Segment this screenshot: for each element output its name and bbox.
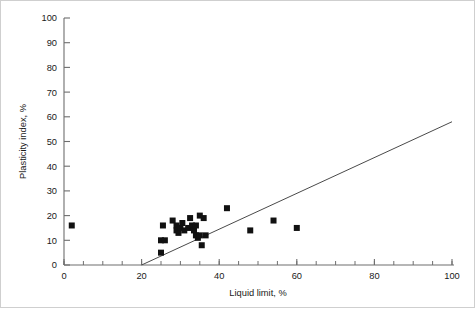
- y-axis-tick-label: 30: [47, 186, 57, 196]
- y-axis-tick-label: 100: [41, 13, 57, 23]
- y-axis-tick-label: 80: [47, 63, 57, 73]
- data-point: [158, 250, 164, 256]
- data-point: [224, 205, 230, 211]
- data-point: [271, 218, 277, 224]
- y-axis-tick-label: 90: [47, 38, 57, 48]
- data-point: [247, 227, 253, 233]
- data-point: [197, 232, 203, 238]
- y-axis-title: Plasticity index, %: [18, 104, 28, 179]
- trend-line: [142, 122, 452, 265]
- y-axis-tick-label: 70: [47, 88, 57, 98]
- scatter-plot-figure: 0204060801000102030405060708090100Liquid…: [0, 0, 476, 309]
- x-axis-title: Liquid limit, %: [229, 288, 286, 298]
- data-point: [179, 220, 185, 226]
- x-axis-tick-label: 100: [444, 271, 460, 281]
- data-point: [162, 237, 168, 243]
- data-point: [203, 232, 209, 238]
- data-point: [201, 215, 207, 221]
- x-axis-tick-label: 80: [369, 271, 379, 281]
- x-axis-tick-label: 0: [61, 271, 66, 281]
- data-point: [160, 222, 166, 228]
- data-point: [187, 215, 193, 221]
- x-axis-tick-label: 60: [292, 271, 302, 281]
- data-point: [294, 225, 300, 231]
- x-axis-tick-label: 20: [136, 271, 146, 281]
- data-point: [193, 222, 199, 228]
- y-axis-tick-label: 10: [47, 236, 57, 246]
- data-point: [69, 222, 75, 228]
- x-axis-tick-label: 40: [214, 271, 224, 281]
- y-axis-tick-label: 20: [47, 211, 57, 221]
- y-axis-tick-label: 50: [47, 137, 57, 147]
- y-axis-tick-label: 40: [47, 162, 57, 172]
- data-point: [199, 242, 205, 248]
- y-axis-tick-label: 0: [52, 260, 57, 270]
- y-axis-tick-label: 60: [47, 112, 57, 122]
- plot-canvas: 0204060801000102030405060708090100Liquid…: [0, 0, 476, 309]
